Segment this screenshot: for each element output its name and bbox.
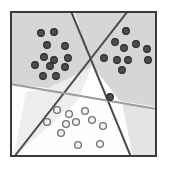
data-point-filled-circle	[51, 29, 58, 36]
data-point-filled-circle	[38, 30, 45, 37]
data-point-filled-circle	[53, 73, 60, 80]
data-point-filled-circle	[145, 57, 152, 64]
data-point-open-circle	[44, 119, 51, 126]
scatter-figure	[0, 0, 171, 172]
data-point-filled-circle	[112, 39, 119, 46]
data-point-filled-circle	[62, 64, 69, 71]
data-point-filled-circle	[144, 46, 151, 53]
data-point-open-circle	[97, 141, 104, 148]
data-point-filled-circle	[51, 57, 58, 64]
data-point-open-circle	[66, 111, 73, 118]
data-point-open-circle	[82, 108, 89, 115]
data-point-filled-circle	[41, 54, 48, 61]
data-point-filled-circle	[62, 43, 69, 50]
data-point-filled-circle	[123, 28, 130, 35]
data-point-filled-circle	[125, 57, 132, 64]
data-point-filled-circle	[44, 42, 51, 49]
data-point-filled-circle	[65, 55, 72, 62]
data-point-filled-circle	[40, 73, 47, 80]
data-point-open-circle	[63, 121, 70, 128]
data-point-filled-circle	[133, 41, 140, 48]
data-point-filled-circle	[121, 45, 128, 52]
data-point-filled-circle	[114, 57, 121, 64]
scatter-plot-canvas	[0, 0, 171, 172]
data-point-open-circle	[75, 142, 82, 149]
data-point-filled-circle	[119, 67, 126, 74]
data-point-open-circle	[100, 123, 107, 130]
data-point-open-circle	[58, 130, 65, 137]
data-point-open-circle	[54, 107, 61, 114]
data-point-filled-circle	[47, 63, 54, 70]
data-point-open-circle	[73, 119, 80, 126]
data-point-filled-circle	[101, 55, 108, 62]
data-point-open-circle	[89, 117, 96, 124]
data-point-filled-circle	[107, 94, 114, 101]
data-point-filled-circle	[32, 62, 39, 69]
